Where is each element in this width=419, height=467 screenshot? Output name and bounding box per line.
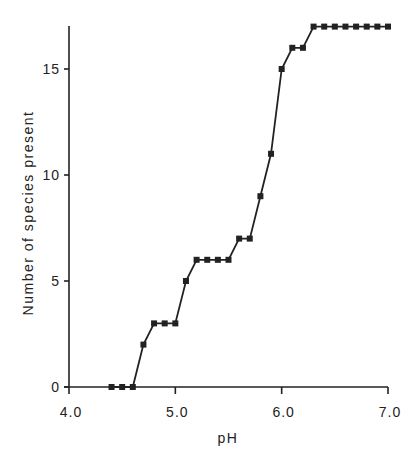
plot-series xyxy=(109,24,391,390)
data-point-marker xyxy=(130,384,136,390)
data-point-marker xyxy=(204,257,210,263)
data-line xyxy=(112,27,389,387)
data-point-marker xyxy=(151,320,157,326)
y-tick-label: 10 xyxy=(42,167,60,183)
data-point-marker xyxy=(236,236,242,242)
data-point-marker xyxy=(194,257,200,263)
data-point-marker xyxy=(364,24,370,30)
data-point-marker xyxy=(300,45,306,51)
data-point-marker xyxy=(311,24,317,30)
data-point-marker xyxy=(279,66,285,72)
data-point-marker xyxy=(215,257,221,263)
x-tick-label: 7.0 xyxy=(379,404,401,420)
data-point-marker xyxy=(172,320,178,326)
y-tick-label: 15 xyxy=(42,61,60,77)
y-tick-label: 5 xyxy=(51,273,60,289)
x-tick-label: 4.0 xyxy=(60,404,82,420)
data-point-marker xyxy=(374,24,380,30)
y-axis-label: Number of species present xyxy=(20,111,36,316)
data-point-marker xyxy=(321,24,327,30)
x-tick-label: 5.0 xyxy=(166,404,188,420)
data-point-marker xyxy=(268,151,274,157)
data-point-marker xyxy=(247,236,253,242)
x-tick-label: 6.0 xyxy=(272,404,294,420)
data-point-marker xyxy=(353,24,359,30)
data-point-marker xyxy=(183,278,189,284)
chart: 0510154.05.06.07.0 pH Number of species … xyxy=(0,0,419,467)
data-point-marker xyxy=(257,193,263,199)
y-tick-label: 0 xyxy=(51,379,60,395)
data-point-marker xyxy=(109,384,115,390)
x-axis-label: pH xyxy=(218,430,239,446)
axes: 0510154.05.06.07.0 xyxy=(42,26,401,420)
data-point-marker xyxy=(332,24,338,30)
data-point-marker xyxy=(119,384,125,390)
data-point-marker xyxy=(162,320,168,326)
data-point-marker xyxy=(226,257,232,263)
data-point-marker xyxy=(385,24,391,30)
data-point-marker xyxy=(140,342,146,348)
data-point-marker xyxy=(289,45,295,51)
data-point-marker xyxy=(342,24,348,30)
